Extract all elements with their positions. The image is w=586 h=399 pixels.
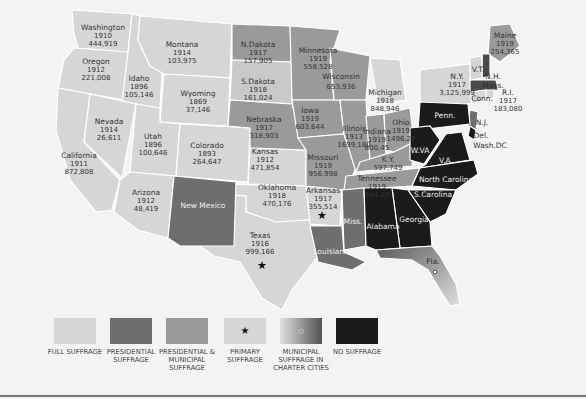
svg-text:999,166: 999,166 [246,248,275,256]
svg-text:N.Y.: N.Y. [450,72,463,81]
legend-item-none: NO SUFFRAGE [328,318,386,356]
svg-text:1910: 1910 [94,32,112,40]
svg-text:Nebraska: Nebraska [246,115,281,124]
svg-text:K.Y.: K.Y. [382,155,395,164]
legend-label: PRIMARY SUFFRAGE [216,348,274,364]
star-icon-arkansas: ★ [317,209,327,222]
legend-label: FULL SUFFRAGE [46,348,104,356]
svg-text:W.VA: W.VA [411,146,431,155]
svg-text:Louisiana: Louisiana [313,247,348,256]
star-icon: ★ [224,318,266,344]
legend-item-primary: ★ PRIMARY SUFFRAGE [216,318,274,364]
svg-text:Alabama: Alabama [366,222,399,231]
state-florida [376,246,460,306]
svg-text:800,45: 800,45 [365,144,390,152]
svg-text:597,749: 597,749 [374,164,403,172]
svg-text:254,365: 254,365 [491,48,520,56]
svg-text:1918: 1918 [268,192,286,200]
svg-text:1919: 1919 [301,115,319,123]
svg-text:Utah: Utah [144,132,162,141]
svg-text:1918: 1918 [249,86,267,94]
circle-icon-florida [433,270,437,274]
svg-text:1893: 1893 [198,150,216,158]
svg-text:V.T.: V.T. [472,65,485,74]
svg-text:1917: 1917 [499,97,517,105]
svg-text:Montana: Montana [166,40,199,49]
svg-text:603,644: 603,644 [296,123,325,131]
svg-text:1914: 1914 [100,126,118,134]
svg-text:Ohio: Ohio [392,118,410,127]
svg-text:470,176: 470,176 [263,200,292,208]
svg-text:Mass.: Mass. [482,81,503,90]
svg-text:103,975: 103,975 [168,57,197,65]
svg-text:264,647: 264,647 [193,158,222,166]
svg-text:1911: 1911 [70,160,88,168]
legend-label: NO SUFFRAGE [328,348,386,356]
svg-text:872,808: 872,808 [65,168,94,176]
svg-text:1919: 1919 [314,162,332,170]
svg-text:Nevada: Nevada [95,117,124,126]
svg-text:S.Carolina: S.Carolina [414,190,452,199]
svg-text:Wash.DC: Wash.DC [473,141,507,150]
svg-text:558,528: 558,528 [304,63,333,71]
svg-text:Del.: Del. [474,131,489,140]
svg-text:1919: 1919 [368,136,386,144]
svg-text:100,646: 100,646 [139,149,168,157]
svg-text:26,611: 26,611 [97,134,122,142]
svg-text:848,946: 848,946 [371,105,400,113]
svg-text:1914: 1914 [173,49,191,57]
svg-text:Wyoming: Wyoming [180,89,215,98]
svg-text:Oregon: Oregon [82,57,110,66]
legend-item-municipal-charter: ○ MUNICIPAL SUFFRAGE IN CHARTER CITIES [272,318,330,372]
svg-text:1917: 1917 [448,81,466,89]
svg-text:157,905: 157,905 [244,57,273,65]
svg-text:183,080: 183,080 [494,105,523,113]
legend-label: MUNICIPAL SUFFRAGE IN CHARTER CITIES [272,348,330,372]
svg-text:R.I.: R.I. [502,88,514,97]
state-new-mexico [168,176,236,246]
svg-text:California: California [61,151,97,160]
svg-text:Wisconsin: Wisconsin [322,72,360,81]
svg-text:1896: 1896 [144,141,162,149]
legend-label: PRESIDENTIAL & MUNICIPAL SUFFRAGE [158,348,216,372]
legend-label: PRESIDENTIAL SUFFRAGE [102,348,160,364]
svg-text:Fla.: Fla. [426,257,439,266]
svg-text:Georgia: Georgia [399,215,428,224]
svg-text:Minnesota: Minnesota [299,46,338,55]
svg-text:Tennessee: Tennessee [356,174,396,183]
legend: FULL SUFFRAGE PRESIDENTIAL SUFFRAGE PRES… [0,318,586,388]
svg-text:Idaho: Idaho [129,74,150,83]
svg-text:N.J.: N.J. [476,118,489,127]
circle-icon: ○ [280,318,322,344]
svg-text:North Carolina: North Carolina [419,175,473,184]
bottom-rule [0,395,586,397]
svg-text:Washington: Washington [81,23,125,32]
svg-text:105,146: 105,146 [125,91,154,99]
svg-text:221,008: 221,008 [82,74,111,82]
legend-swatch [336,318,378,344]
legend-item-full: FULL SUFFRAGE [46,318,104,356]
svg-text:3,125,999: 3,125,999 [439,89,475,97]
svg-text:1919: 1919 [309,55,327,63]
svg-text:564,10: 564,10 [365,191,390,199]
svg-text:Conn.: Conn. [471,94,493,103]
svg-text:N.Dakota: N.Dakota [241,40,276,49]
svg-text:Arkansas: Arkansas [306,186,340,195]
svg-text:Arizona: Arizona [132,188,160,197]
svg-text:V.A.: V.A. [439,156,453,165]
svg-text:1917: 1917 [249,49,267,57]
svg-text:Maine: Maine [494,31,517,40]
svg-text:Miss.: Miss. [344,217,363,226]
svg-text:1917: 1917 [314,195,332,203]
svg-text:Penn.: Penn. [435,111,456,120]
svg-text:N.H.: N.H. [485,72,501,81]
svg-text:48,419: 48,419 [134,205,159,213]
us-suffrage-map: Washington 1910 444,919 Oregon 1912 221,… [0,0,586,310]
svg-text:1912: 1912 [256,156,274,164]
svg-text:Texas: Texas [249,231,271,240]
svg-text:Kansas: Kansas [252,147,279,156]
svg-text:956,998: 956,998 [309,170,338,178]
legend-item-presidential: PRESIDENTIAL SUFFRAGE [102,318,160,364]
svg-text:Missouri: Missouri [308,153,339,162]
svg-text:1896: 1896 [130,83,148,91]
